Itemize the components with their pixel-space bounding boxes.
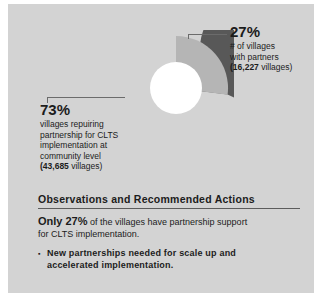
observations-lead-rest-2: for CLTS implementation. [38,229,300,241]
callout-73-count: (43,685 villages) [40,161,126,172]
callout-73-line4: community level [40,151,126,162]
observations-bullet-item: ▪ New partnerships needed for scale up a… [38,248,300,271]
callout-27-line1: # of villages [230,41,322,52]
leader-line-left [47,97,125,98]
observations-lead-rest-1: of the villages have partnership support [88,217,248,227]
leader-line-right [188,34,227,35]
donut-chart-svg [118,30,234,146]
leader-tick-right [188,34,189,39]
callout-27-count: (16,227 villages) [230,62,322,73]
observations-lead-strong: Only 27% [38,215,88,227]
observations-bullet-line2: accelerated implementation. [47,260,300,272]
observations-section: Observations and Recommended Actions Onl… [38,193,300,271]
callout-73-line1: villages repuiring [40,119,126,130]
callout-27-count-value: 16,227 [233,62,259,72]
callout-27-count-suffix: villages) [259,62,293,72]
callout-27-description: # of villages with partners (16,227 vill… [230,41,322,73]
observations-divider [38,208,300,209]
callout-73-line3: implementation at [40,140,126,151]
slide-panel: 27% # of villages with partners (16,227 … [8,4,314,293]
callout-73-count-suffix: villages) [69,161,103,171]
callout-27-percent-value: 27% [230,24,322,40]
callout-73-count-value: 43,685 [43,161,69,171]
observations-bullet-line1: New partnerships needed for scale up and [47,248,300,260]
callout-73-percent-value: 73% [40,102,126,118]
callout-27-percent: 27% # of villages with partners (16,227 … [230,24,322,73]
donut-hole [150,62,202,114]
donut-chart [118,30,234,146]
callout-73-percent: 73% villages repuiring partnership for C… [40,102,126,172]
observations-heading: Observations and Recommended Actions [38,193,300,208]
observations-lead-paragraph: Only 27% of the villages have partnershi… [38,216,300,240]
callout-27-line2: with partners [230,52,322,63]
callout-73-description: villages repuiring partnership for CLTS … [40,119,126,172]
bullet-square-icon: ▪ [38,248,47,260]
observations-bullet-text: New partnerships needed for scale up and… [47,248,300,271]
callout-73-line2: partnership for CLTS [40,130,126,141]
